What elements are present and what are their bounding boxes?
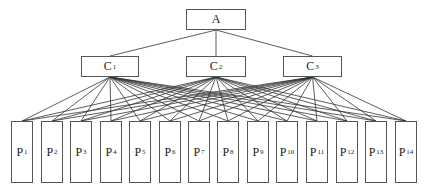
alternative-label: P (105, 145, 112, 160)
alternative-subscript: 10 (287, 148, 294, 156)
criterion-subscript: 1 (113, 63, 117, 71)
alternative-label: P (16, 145, 23, 160)
criterion-node-c3: C3 (283, 56, 342, 77)
criterion-node-c2: C2 (186, 56, 246, 77)
alternative-subscript: 13 (376, 148, 383, 156)
alternative-node-p2: P2 (41, 121, 63, 183)
criterion-subscript: 2 (219, 63, 223, 71)
alternative-label: P (252, 145, 259, 160)
alternative-subscript: 4 (113, 148, 117, 156)
criterion-label: C (306, 59, 314, 74)
alternative-subscript: 8 (230, 148, 234, 156)
alternative-label: P (164, 145, 171, 160)
goal-label: A (212, 12, 221, 27)
alternative-label: P (280, 145, 287, 160)
alternative-subscript: 5 (142, 148, 146, 156)
alternative-node-p1: P1 (11, 121, 33, 183)
alternative-node-p3: P3 (70, 121, 92, 183)
alternative-node-p8: P8 (217, 121, 239, 183)
alternative-label: P (399, 145, 406, 160)
alternative-subscript: 11 (317, 148, 324, 156)
criterion-subscript: 3 (315, 63, 319, 71)
alternative-subscript: 3 (83, 148, 87, 156)
alternative-subscript: 12 (347, 148, 354, 156)
alternative-node-p14: P14 (395, 121, 417, 183)
goal-node-a: A (186, 9, 246, 30)
alternative-node-p13: P13 (365, 121, 387, 183)
alternative-subscript: 2 (54, 148, 58, 156)
alternative-label: P (75, 145, 82, 160)
alternative-label: P (369, 145, 376, 160)
alternative-node-p4: P4 (100, 121, 122, 183)
alternative-subscript: 9 (260, 148, 264, 156)
criterion-node-c1: C1 (81, 56, 139, 77)
alternative-label: P (46, 145, 53, 160)
alternative-label: P (310, 145, 317, 160)
alternative-label: P (193, 145, 200, 160)
alternative-node-p7: P7 (188, 121, 210, 183)
criterion-label: C (104, 59, 112, 74)
alternative-node-p10: P10 (276, 121, 298, 183)
alternative-node-p11: P11 (306, 121, 328, 183)
alternative-label: P (222, 145, 229, 160)
alternative-subscript: 1 (24, 148, 28, 156)
alternative-node-p5: P5 (129, 121, 151, 183)
alternative-subscript: 7 (201, 148, 205, 156)
alternative-subscript: 6 (172, 148, 176, 156)
alternative-subscript: 14 (406, 148, 413, 156)
alternative-node-p12: P12 (336, 121, 358, 183)
alternative-label: P (134, 145, 141, 160)
alternative-node-p9: P9 (247, 121, 269, 183)
criterion-label: C (210, 59, 218, 74)
alternative-node-p6: P6 (159, 121, 181, 183)
alternative-label: P (340, 145, 347, 160)
